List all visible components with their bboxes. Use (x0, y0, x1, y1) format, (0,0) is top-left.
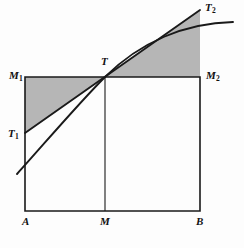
diagram-canvas (0, 0, 244, 248)
geometry-figure: M1 M2 T T1 T2 A M B (0, 0, 244, 248)
vertex-label-m2: M2 (206, 70, 220, 81)
vertex-label-m1: M1 (9, 70, 23, 81)
vertex-label-b: B (196, 216, 203, 227)
vertex-label-m: M (100, 216, 110, 227)
vertex-label-t2: T2 (205, 2, 216, 13)
vertex-label-t1: T1 (8, 128, 19, 139)
vertex-label-a: A (22, 216, 29, 227)
vertex-label-t: T (101, 56, 108, 67)
